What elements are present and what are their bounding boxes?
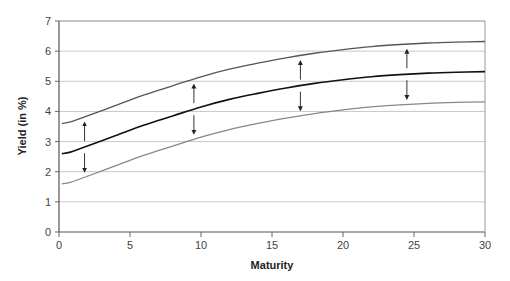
yield-curve-chart: 01234567051015202530 Maturity Yield (in … [0,0,510,281]
y-tick-label: 4 [45,105,51,117]
series-lines [62,41,485,183]
y-tick-label: 3 [45,136,51,148]
x-tick-label: 25 [408,239,420,251]
y-tick-label: 5 [45,75,51,87]
y-tick-label: 1 [45,196,51,208]
tick-labels: 01234567051015202530 [45,15,491,251]
x-tick-label: 20 [337,239,349,251]
shift-arrows [85,51,407,170]
gridlines [59,21,485,202]
y-tick-label: 7 [45,15,51,27]
x-tick-label: 10 [195,239,207,251]
x-tick-label: 15 [266,239,278,251]
y-tick-label: 0 [45,226,51,238]
y-axis-title: Yield (in %) [16,96,28,155]
x-axis-title: Maturity [251,259,295,271]
y-tick-label: 6 [45,45,51,57]
x-tick-label: 30 [479,239,491,251]
x-tick-label: 5 [127,239,133,251]
y-tick-label: 2 [45,166,51,178]
x-tick-label: 0 [56,239,62,251]
axes [55,21,485,237]
